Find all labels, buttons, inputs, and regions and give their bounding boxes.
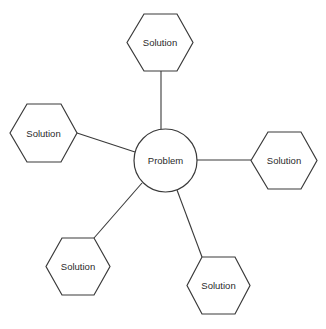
solution-label: Solution: [201, 280, 235, 291]
solution-node-bottom-right: Solution: [187, 257, 250, 314]
solution-node-bottom-left: Solution: [46, 238, 110, 295]
solution-node-right: Solution: [251, 132, 317, 189]
solution-node-top: Solution: [127, 14, 193, 71]
edge-problem-to-solution-bottom-left: [94, 183, 142, 238]
edge-problem-to-solution-bottom-right: [177, 190, 202, 257]
problem-label: Problem: [148, 155, 183, 166]
solution-label: Solution: [267, 155, 301, 166]
problem-node: Problem: [134, 129, 197, 192]
edge-problem-to-solution-left: [77, 133, 135, 152]
solution-label: Solution: [143, 37, 177, 48]
problem-solution-diagram: Problem Solution Solution Solution Solut…: [0, 0, 326, 329]
solution-label: Solution: [26, 128, 60, 139]
solution-label: Solution: [61, 261, 95, 272]
solution-node-left: Solution: [10, 104, 77, 162]
